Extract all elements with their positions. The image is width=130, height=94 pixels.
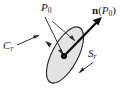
point-p0-marker <box>61 53 67 59</box>
cr-leader-arrowhead <box>33 35 40 39</box>
label-point-p0-subscript: 0 <box>48 6 52 15</box>
label-surface: Sr <box>88 48 97 61</box>
label-normal-vector-close-paren: ) <box>112 4 116 16</box>
label-surface-symbol: S <box>88 47 94 59</box>
label-normal-vector: n(P0) <box>92 5 116 18</box>
sr-leader-arrowhead <box>78 67 84 73</box>
label-boundary-curve-subscript: r <box>10 44 13 53</box>
label-point-p0: P0 <box>41 2 51 15</box>
math-figure: P0 n(P0) Cr Sr <box>0 0 130 94</box>
label-normal-vector-argument: P <box>102 4 109 16</box>
label-surface-subscript: r <box>94 52 97 61</box>
label-boundary-curve: Cr <box>3 40 13 53</box>
cr-rim-direction-arrowhead <box>45 41 51 48</box>
label-point-p0-symbol: P <box>41 1 48 13</box>
